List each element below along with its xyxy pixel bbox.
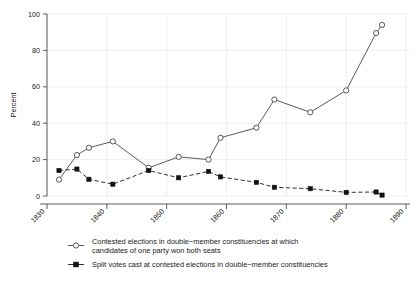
data-point-marker-filled <box>57 168 61 172</box>
line-chart: 020406080100 183018401850186018701880189… <box>0 0 416 282</box>
legend-marker-open-circle <box>73 243 78 248</box>
y-tick-label: 100 <box>28 10 40 19</box>
data-point-marker-open <box>86 145 91 150</box>
y-tick-label: 40 <box>32 119 40 128</box>
data-point-marker-open <box>56 177 61 182</box>
data-point-marker-open <box>373 31 378 36</box>
legend-label-open-series-line2: candidates of one party won both seats <box>92 246 221 255</box>
y-tick-label: 20 <box>32 155 40 164</box>
data-point-marker-filled <box>344 190 348 194</box>
data-point-marker-open <box>206 157 211 162</box>
data-point-marker-open <box>344 88 349 93</box>
data-point-marker-filled <box>308 187 312 191</box>
data-point-marker-open <box>272 97 277 102</box>
legend-label-filled-series-line1: Split votes cast at contested elections … <box>92 260 328 269</box>
chart-figure: 020406080100 183018401850186018701880189… <box>0 0 416 282</box>
data-point-marker-filled <box>75 167 79 171</box>
data-point-marker-filled <box>218 175 222 179</box>
data-point-marker-filled <box>111 182 115 186</box>
data-point-marker-open <box>308 110 313 115</box>
data-point-marker-open <box>379 22 384 27</box>
y-tick-label: 60 <box>32 82 40 91</box>
data-point-marker-open <box>218 135 223 140</box>
legend-marker-filled-square <box>74 262 79 267</box>
data-point-marker-filled <box>87 177 91 181</box>
data-point-marker-open <box>110 139 115 144</box>
data-point-marker-filled <box>272 185 276 189</box>
y-axis-title: Percent <box>9 93 18 118</box>
data-point-marker-filled <box>177 176 181 180</box>
data-point-marker-open <box>176 154 181 159</box>
data-point-marker-filled <box>254 180 258 184</box>
data-point-marker-filled <box>380 193 384 197</box>
data-point-marker-open <box>254 125 259 130</box>
data-point-marker-filled <box>147 168 151 172</box>
data-point-marker-filled <box>206 169 210 173</box>
y-tick-label: 0 <box>36 192 40 201</box>
data-point-marker-filled <box>374 190 378 194</box>
y-tick-label: 80 <box>32 46 40 55</box>
data-point-marker-open <box>74 152 79 157</box>
